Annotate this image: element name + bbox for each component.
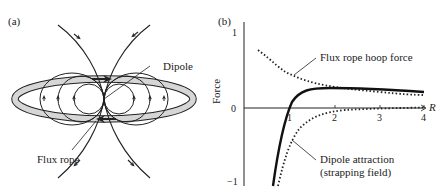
x-axis-label: R (429, 101, 436, 113)
y-tick-1: 1 (232, 27, 237, 38)
panel-b-label: (b) (218, 15, 231, 27)
y-tick-0: 0 (231, 103, 236, 114)
hoop-force-annotation: Flux rope hoop force (320, 51, 413, 63)
hoop-leader-line (294, 58, 316, 75)
x-tick-3: 3 (377, 112, 382, 123)
dipole-attraction-annotation: Dipole attraction (320, 153, 394, 165)
panel-a-label: (a) (8, 15, 20, 27)
x-tick-4: 4 (421, 112, 426, 123)
dipole-annotation: Dipole (163, 60, 193, 72)
dipole-attraction-leader-line (292, 140, 316, 160)
y-tick-neg1: −1 (227, 176, 238, 187)
x-tick-2: 2 (332, 112, 337, 123)
x-tick-1: 1 (287, 112, 292, 123)
y-axis-label: Force (210, 79, 222, 104)
flux-rope-annotation: Flux rope (37, 153, 79, 165)
strapping-field-annotation: (strapping field) (320, 166, 391, 178)
